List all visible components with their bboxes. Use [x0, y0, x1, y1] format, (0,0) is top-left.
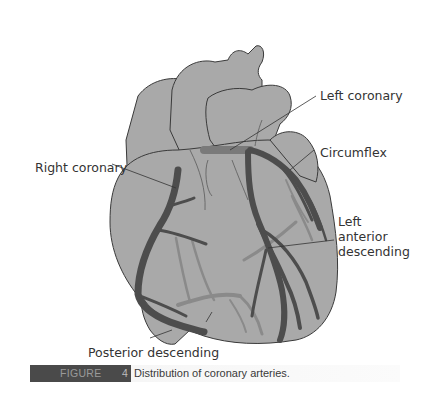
label-lad-line3: descending	[338, 244, 410, 259]
figure-tag-label: FIGURE	[60, 367, 101, 379]
coronary-artery-diagram	[0, 0, 429, 403]
label-lad-line2: anterior	[338, 229, 388, 244]
label-right-coronary: Right coronary	[35, 160, 127, 175]
label-lad-line1: Left	[338, 214, 362, 229]
label-posterior-descending: Posterior descending	[88, 345, 219, 360]
label-circumflex: Circumflex	[320, 145, 387, 160]
figure-caption: Distribution of coronary arteries.	[134, 367, 290, 379]
label-left-coronary: Left coronary	[320, 88, 403, 103]
figure-number: 4	[122, 367, 128, 379]
